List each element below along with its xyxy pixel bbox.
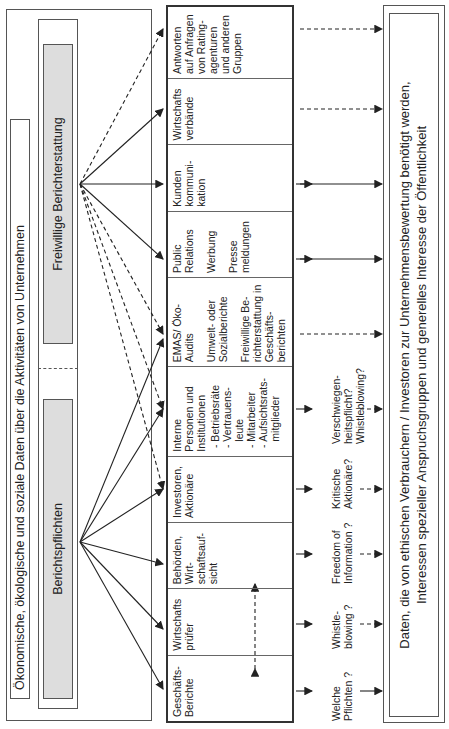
cell-wirtschaftspruefer: Wirtschafts prüfer xyxy=(168,588,292,654)
stakeholder-text-line1: Daten, die von ethischen Verbrauchern / … xyxy=(396,14,413,716)
cell-wirtschaftsverbaende: Wirtschafts verbände xyxy=(168,78,292,144)
cell-behoerden: Behörden, Wirt-schaftsauf-sicht xyxy=(168,522,292,588)
cell-emas: EMAS/ Öko-Audits Umwelt- oder Sozialberi… xyxy=(168,277,292,366)
cell-interne-personen: Interne Personen und Institutionen Betri… xyxy=(168,366,292,455)
cell-geschaeftsberichte: Geschäfts-Berichte xyxy=(168,655,292,721)
question-whistleblowing: Whistle-blowing ? xyxy=(330,594,354,649)
question-verschwiegenheitspflicht: Verschwiegen-heitspflicht? Whistleblowin… xyxy=(330,364,366,444)
cell-rating-anfragen: Antworten auf Anfragen von Rating-agentu… xyxy=(168,7,292,78)
question-freedom-of-information: Freedom of Information ? xyxy=(330,514,354,584)
cell-kundenkommunikation: Kunden kommuni-kation xyxy=(168,144,292,210)
interne-personen-list: Betriebsräte Vertrauens-leute Mitarbeite… xyxy=(209,371,281,451)
stakeholder-data-box: Daten, die von ethischen Verbrauchern / … xyxy=(389,13,439,717)
cell-investoren: Investoren, Aktionäre xyxy=(168,456,292,522)
cell-public-relations: Public Relations Werbung Presse meldunge… xyxy=(168,211,292,277)
stakeholder-text-line2: Interessen spezieller Anspruchsgruppen u… xyxy=(413,14,430,716)
diagram-canvas: Ökonomische, ökologische und soziale Dat… xyxy=(0,0,449,729)
question-kritische-aktionaere: Kritische Aktionäre? xyxy=(330,449,354,509)
question-pflichten: Welche Pflichten ? xyxy=(330,671,354,721)
information-channels-table: Geschäfts-Berichte Wirtschafts prüfer Be… xyxy=(166,5,294,723)
